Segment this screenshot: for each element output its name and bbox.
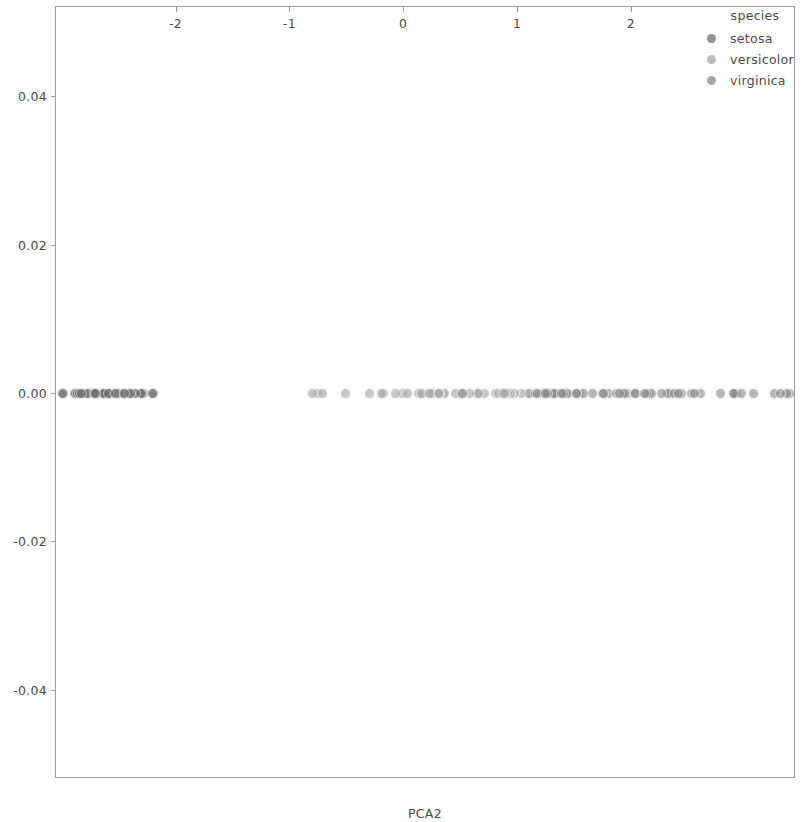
data-point: [556, 388, 567, 399]
data-point: [499, 388, 510, 399]
data-point: [317, 388, 328, 399]
data-point: [540, 388, 551, 399]
x-axis-label: PCA2: [55, 806, 795, 821]
x-tick-label: 1: [513, 16, 521, 31]
legend-marker-icon: [700, 55, 722, 64]
legend-items: setosaversicolorvirginica: [700, 28, 796, 91]
data-point: [571, 388, 582, 399]
y-tick-label: -0.02: [13, 534, 47, 549]
legend-item-label: setosa: [730, 31, 773, 46]
scatter-plot-figure: 0.040.020.00-0.02-0.04 -2-1012 PCA2 spec…: [0, 0, 810, 822]
y-tick-mark: [51, 96, 56, 97]
legend-item-virginica[interactable]: virginica: [700, 70, 796, 91]
data-point: [775, 388, 786, 399]
data-point: [689, 388, 700, 399]
data-point: [673, 388, 684, 399]
x-tick-mark: [403, 7, 404, 12]
data-point: [147, 388, 158, 399]
data-point: [728, 388, 739, 399]
x-tick-mark: [517, 7, 518, 12]
y-tick-mark: [51, 245, 56, 246]
y-tick-mark: [51, 541, 56, 542]
data-point: [715, 388, 726, 399]
y-tick-mark: [51, 690, 56, 691]
x-tick-label: -2: [169, 16, 182, 31]
x-tick-label: 2: [627, 16, 635, 31]
data-point: [748, 388, 759, 399]
legend-title: species: [700, 8, 796, 23]
data-point: [390, 388, 401, 399]
legend-item-label: virginica: [730, 73, 786, 88]
data-point: [457, 388, 468, 399]
data-point: [376, 388, 387, 399]
plot-axes-frame: 0.040.020.00-0.02-0.04 -2-1012: [55, 6, 795, 778]
data-point: [639, 388, 650, 399]
data-point: [90, 388, 101, 399]
data-point: [340, 388, 351, 399]
data-point: [598, 388, 609, 399]
x-tick-label: 0: [399, 16, 407, 31]
legend-item-versicolor[interactable]: versicolor: [700, 49, 796, 70]
y-tick-label: -0.04: [13, 682, 47, 697]
data-point: [614, 388, 625, 399]
data-point: [433, 388, 444, 399]
x-tick-mark: [289, 7, 290, 12]
y-tick-label: 0.00: [18, 386, 47, 401]
data-point: [57, 388, 68, 399]
x-tick-mark: [631, 7, 632, 12]
legend-item-label: versicolor: [730, 52, 794, 67]
x-tick-label: -1: [283, 16, 296, 31]
y-tick-mark: [51, 393, 56, 394]
y-tick-label: 0.04: [18, 89, 47, 104]
plot-data-area: [56, 7, 794, 777]
data-point: [364, 388, 375, 399]
data-point: [307, 388, 318, 399]
legend: species setosaversicolorvirginica: [700, 8, 796, 91]
legend-item-setosa[interactable]: setosa: [700, 28, 796, 49]
data-point: [402, 388, 413, 399]
legend-marker-icon: [700, 76, 722, 85]
data-point: [76, 388, 87, 399]
data-point: [119, 388, 130, 399]
y-tick-label: 0.02: [18, 237, 47, 252]
legend-marker-icon: [700, 34, 722, 43]
x-tick-mark: [176, 7, 177, 12]
data-point: [656, 388, 667, 399]
